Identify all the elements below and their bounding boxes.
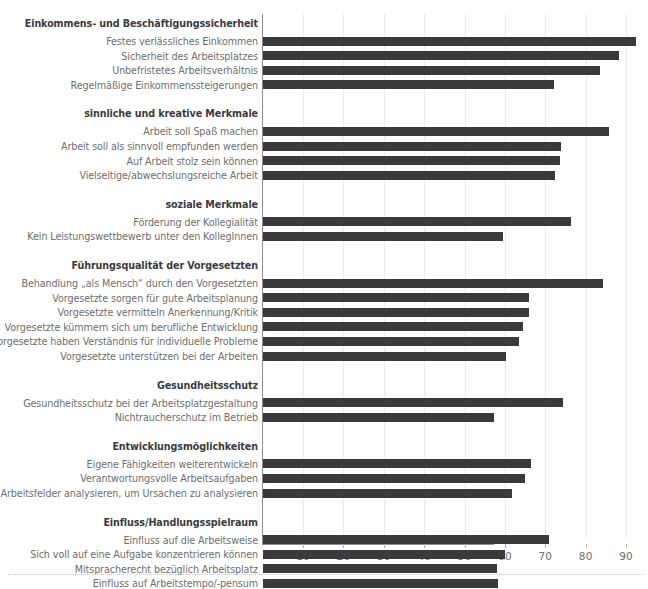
category-label: Vielseitige/abwechslungsreiche Arbeit [79, 170, 258, 181]
category-label: Förderung der Kollegialität [133, 217, 258, 228]
tick-mark-50 [465, 544, 466, 548]
bar [263, 413, 494, 422]
tick-mark-40 [424, 544, 425, 548]
category-label: Verantwortungsvolle Arbeitsaufgaben [80, 473, 258, 484]
category-label: Kein Leistungswettbewerb unter den Kolle… [27, 231, 258, 242]
category-label: Auf Arbeit stolz sein können [126, 156, 258, 167]
bar [263, 337, 519, 346]
bar [263, 564, 497, 573]
category-label: Sich voll auf eine Aufgabe konzentrieren… [30, 549, 258, 560]
category-label: Arbeitsfelder analysieren, um Ursachen z… [1, 488, 258, 499]
tick-mark-70 [545, 544, 546, 548]
footer-divider [8, 574, 644, 576]
category-label: Vorgesetzte unterstützen bei der Arbeite… [60, 351, 258, 362]
category-label: Gesundheitsschutz bei der Arbeitsplatzge… [23, 398, 258, 409]
bar [263, 66, 600, 75]
category-label: Einfluss auf die Arbeitsweise [124, 535, 258, 546]
group-heading: Führungsqualität der Vorgesetzten [72, 260, 259, 271]
x-tick-label-80: 80 [579, 550, 593, 562]
bar [263, 51, 619, 60]
bar [263, 579, 498, 588]
bar [263, 279, 603, 288]
bar [263, 232, 503, 241]
group-heading: soziale Merkmale [165, 199, 258, 210]
category-label: Unbefristetes Arbeitsverhältnis [112, 65, 258, 76]
bar [263, 156, 560, 165]
tick-mark-30 [384, 544, 385, 548]
group-heading: Einfluss/Handlungsspielraum [103, 517, 258, 528]
category-label: Nichtraucherschutz im Betrieb [115, 412, 258, 423]
tick-mark-20 [343, 544, 344, 548]
category-label: Behandlung „als Mensch“ durch den Vorges… [21, 278, 258, 289]
bar [263, 535, 549, 544]
category-label: Regelmäßige Einkommenssteigerungen [71, 80, 258, 91]
tick-mark-90 [626, 544, 627, 548]
group-heading: Einkommens- und Beschäftigungssicherheit [25, 18, 258, 29]
bar [263, 308, 529, 317]
x-tick-label-70: 70 [538, 550, 552, 562]
bar [263, 217, 571, 226]
category-label: Arbeit soll Spaß machen [143, 126, 258, 137]
x-axis-line [262, 544, 494, 545]
gridline-80 [586, 14, 587, 538]
group-heading: sinnliche und kreative Merkmale [84, 108, 258, 119]
category-label: Einfluss auf Arbeitstempo/-pensum [93, 578, 258, 589]
bar [263, 171, 555, 180]
x-tick-label-90: 90 [619, 550, 633, 562]
tick-mark-10 [303, 544, 304, 548]
bar [263, 474, 525, 483]
bar [263, 352, 506, 361]
bar [263, 489, 512, 498]
gridline-70 [545, 14, 546, 538]
bar [263, 80, 554, 89]
category-label: Vorgesetzte kümmern sich um berufliche E… [5, 322, 258, 333]
tick-mark-60 [505, 544, 506, 548]
category-label: Vorgesetzte haben Verständnis für indivi… [0, 336, 258, 347]
bar [263, 127, 609, 136]
bar [263, 37, 636, 46]
bar [263, 142, 561, 151]
gridline-90 [626, 14, 627, 538]
category-label: Eigene Fähigkeiten weiterentwickeln [87, 459, 258, 470]
bar [263, 322, 523, 331]
bar [263, 398, 563, 407]
bar [263, 550, 505, 559]
group-heading: Entwicklungsmöglichkeiten [112, 441, 258, 452]
bar [263, 459, 531, 468]
category-label: Arbeit soll als sinnvoll empfunden werde… [61, 141, 258, 152]
category-label: Sicherheit des Arbeitsplatzes [121, 51, 258, 62]
category-label: Vorgesetzte vermitteln Anerkennung/Kriti… [58, 307, 259, 318]
tick-mark-80 [586, 544, 587, 548]
category-label: Vorgesetzte sorgen für gute Arbeitsplanu… [52, 293, 258, 304]
group-heading: Gesundheitsschutz [157, 380, 258, 391]
bar [263, 293, 529, 302]
category-label: Festes verlässliches Einkommen [106, 36, 258, 47]
